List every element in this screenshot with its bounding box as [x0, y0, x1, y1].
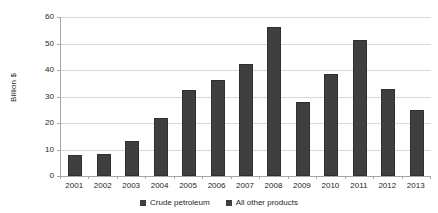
y-axis-tick-label: 10 [45, 146, 54, 154]
x-axis-tick-mark [402, 176, 403, 179]
x-axis-tick-mark [259, 176, 260, 179]
bar [353, 40, 367, 176]
x-axis-tick-mark [174, 176, 175, 179]
legend-entry: Crude petroleum [140, 199, 210, 207]
bar-chart: Billion $ 0102030405060 2001200220032004… [0, 0, 438, 213]
bar [324, 74, 338, 176]
x-axis-tick-label: 2004 [151, 182, 169, 190]
bar [410, 110, 424, 176]
legend-label: Crude petroleum [150, 199, 210, 207]
x-axis-tick-label: 2001 [65, 182, 83, 190]
legend-label: All other products [236, 199, 298, 207]
bar [97, 154, 111, 176]
bar [239, 64, 253, 176]
x-axis-tick-mark [145, 176, 146, 179]
bar [296, 102, 310, 176]
y-axis-title: Billion $ [0, 0, 26, 175]
y-axis-title-label: Billion $ [9, 73, 18, 102]
bar [211, 80, 225, 176]
y-axis-tick-label: 40 [45, 66, 54, 74]
x-axis-tick-label: 2009 [293, 182, 311, 190]
bar [68, 155, 82, 176]
bar-series-crude-petroleum [61, 17, 431, 176]
plot-area: 0102030405060 [60, 17, 431, 176]
y-axis-tick-label: 60 [45, 13, 54, 21]
x-axis-tick-mark [202, 176, 203, 179]
bar [381, 89, 395, 176]
x-axis-tick-label: 2013 [407, 182, 425, 190]
x-axis-tick-label: 2007 [236, 182, 254, 190]
bar [267, 27, 281, 176]
y-axis-tick-label: 30 [45, 93, 54, 101]
x-axis-tick-label: 2012 [378, 182, 396, 190]
y-axis-tick-label: 0 [50, 172, 54, 180]
x-axis-tick-mark [88, 176, 89, 179]
y-axis-tick-label: 20 [45, 119, 54, 127]
legend-swatch-icon [226, 200, 232, 206]
x-axis: 2001200220032004200520062007200820092010… [60, 176, 430, 196]
x-axis-tick-label: 2010 [321, 182, 339, 190]
x-axis-tick-mark [231, 176, 232, 179]
x-axis-tick-mark [60, 176, 61, 179]
x-axis-tick-label: 2003 [122, 182, 140, 190]
bar [154, 118, 168, 176]
y-axis-tick-label: 50 [45, 40, 54, 48]
x-axis-tick-mark [345, 176, 346, 179]
x-axis-tick-label: 2008 [265, 182, 283, 190]
x-axis-tick-mark [117, 176, 118, 179]
x-axis-tick-mark [373, 176, 374, 179]
x-axis-tick-label: 2011 [350, 182, 367, 190]
bar [182, 90, 196, 176]
legend-entry: All other products [226, 199, 298, 207]
x-axis-tick-label: 2002 [94, 182, 112, 190]
bar [125, 141, 139, 176]
x-axis-tick-label: 2005 [179, 182, 197, 190]
x-axis-tick-mark [316, 176, 317, 179]
chart-legend: Crude petroleumAll other products [0, 196, 438, 210]
x-axis-tick-label: 2006 [208, 182, 226, 190]
x-axis-tick-mark [288, 176, 289, 179]
legend-swatch-icon [140, 200, 146, 206]
x-axis-tick-mark [430, 176, 431, 179]
